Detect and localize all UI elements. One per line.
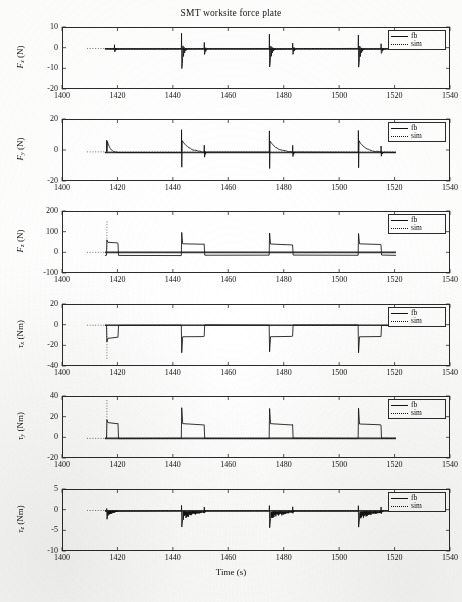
y-tick-label: 20 <box>18 412 58 421</box>
legend-line-dotted-icon <box>391 321 408 322</box>
legend-line-solid-icon <box>391 36 408 37</box>
x-tick-label: 1540 <box>434 368 462 377</box>
legend-entry-sim[interactable]: sim <box>391 409 443 417</box>
x-tick-label: 1540 <box>434 183 462 192</box>
x-tick-label: 1500 <box>323 460 355 469</box>
legend-1[interactable]: fbsim <box>388 30 446 50</box>
x-tick-label: 1420 <box>101 460 133 469</box>
x-tick-label: 1460 <box>212 183 244 192</box>
x-tick-label: 1400 <box>46 183 78 192</box>
legend-entry-sim[interactable]: sim <box>391 40 443 48</box>
x-tick-label: 1520 <box>379 275 411 284</box>
legend-entry-sim[interactable]: sim <box>391 132 443 140</box>
legend-entry-sim[interactable]: sim <box>391 317 443 325</box>
x-tick-label: 1420 <box>101 275 133 284</box>
x-tick-label: 1460 <box>212 368 244 377</box>
y-tick-label: -100 <box>18 268 58 277</box>
y-axis-label-2: Fy (N) <box>15 129 25 169</box>
x-axis-label: Time (s) <box>0 567 462 577</box>
y-tick-label: 10 <box>18 22 58 31</box>
legend-line-solid-icon <box>391 405 408 406</box>
legend-line-dotted-icon <box>391 506 408 507</box>
y-tick-label: 20 <box>18 299 58 308</box>
legend-entry-sim[interactable]: sim <box>391 224 443 232</box>
legend-label: sim <box>411 40 422 48</box>
legend-entry-sim[interactable]: sim <box>391 502 443 510</box>
y-tick-label: 200 <box>18 206 58 215</box>
x-tick-label: 1480 <box>268 553 300 562</box>
y-tick-label: -20 <box>18 84 58 93</box>
legend-line-dotted-icon <box>391 413 408 414</box>
x-tick-label: 1500 <box>323 183 355 192</box>
series-fb <box>105 232 396 255</box>
legend-2[interactable]: fbsim <box>388 122 446 142</box>
y-tick-label: -5 <box>18 525 58 534</box>
x-tick-label: 1400 <box>46 460 78 469</box>
y-tick-label: 0 <box>18 505 58 514</box>
legend-line-solid-icon <box>391 128 408 129</box>
x-tick-label: 1400 <box>46 368 78 377</box>
x-tick-label: 1540 <box>434 275 462 284</box>
x-tick-label: 1540 <box>434 91 462 100</box>
x-tick-label: 1520 <box>379 91 411 100</box>
x-tick-label: 1500 <box>323 91 355 100</box>
x-tick-label: 1480 <box>268 275 300 284</box>
y-axis-label-1: Fx (N) <box>15 37 25 77</box>
series-fb <box>105 33 396 68</box>
legend-line-solid-icon <box>391 220 408 221</box>
x-tick-label: 1520 <box>379 183 411 192</box>
x-tick-label: 1440 <box>157 368 189 377</box>
y-axis-label-3: Fz (N) <box>15 221 25 261</box>
y-tick-label: -20 <box>18 453 58 462</box>
y-tick-label: -10 <box>18 546 58 555</box>
x-tick-label: 1400 <box>46 553 78 562</box>
x-tick-label: 1540 <box>434 553 462 562</box>
y-axis-label-6: τz (Nm) <box>15 499 25 539</box>
legend-line-solid-icon <box>391 313 408 314</box>
legend-line-dotted-icon <box>391 228 408 229</box>
x-tick-label: 1520 <box>379 368 411 377</box>
x-tick-label: 1500 <box>323 275 355 284</box>
legend-4[interactable]: fbsim <box>388 307 446 327</box>
x-tick-label: 1440 <box>157 183 189 192</box>
x-tick-label: 1460 <box>212 553 244 562</box>
y-tick-label: 0 <box>18 145 58 154</box>
series-fb <box>105 505 396 527</box>
figure-title: SMT worksite force plate <box>0 8 462 18</box>
subplot-6: τz (Nm)50-5-1014001420144014601480150015… <box>0 0 462 602</box>
x-tick-label: 1400 <box>46 275 78 284</box>
x-tick-label: 1480 <box>268 183 300 192</box>
x-tick-label: 1440 <box>157 91 189 100</box>
series-fb <box>105 325 396 353</box>
y-tick-label: 40 <box>18 391 58 400</box>
x-tick-label: 1520 <box>379 460 411 469</box>
legend-label: sim <box>411 224 422 232</box>
y-tick-label: -40 <box>18 361 58 370</box>
y-tick-label: 5 <box>18 484 58 493</box>
x-tick-label: 1500 <box>323 553 355 562</box>
legend-6[interactable]: fbsim <box>388 492 446 512</box>
x-tick-label: 1520 <box>379 553 411 562</box>
legend-label: sim <box>411 317 422 325</box>
x-tick-label: 1420 <box>101 183 133 192</box>
x-tick-label: 1460 <box>212 275 244 284</box>
x-tick-label: 1440 <box>157 460 189 469</box>
x-tick-label: 1440 <box>157 553 189 562</box>
legend-5[interactable]: fbsim <box>388 399 446 419</box>
x-tick-label: 1540 <box>434 460 462 469</box>
y-tick-label: -20 <box>18 340 58 349</box>
x-tick-label: 1420 <box>101 553 133 562</box>
x-tick-label: 1480 <box>268 460 300 469</box>
y-axis-label-4: τx (Nm) <box>15 314 25 354</box>
y-tick-label: -10 <box>18 63 58 72</box>
x-tick-label: 1420 <box>101 91 133 100</box>
legend-label: sim <box>411 132 422 140</box>
y-tick-label: 100 <box>18 227 58 236</box>
y-tick-label: 20 <box>18 114 58 123</box>
x-tick-label: 1480 <box>268 368 300 377</box>
legend-3[interactable]: fbsim <box>388 214 446 234</box>
x-tick-label: 1420 <box>101 368 133 377</box>
figure-root: SMT worksite force plate Fx (N)100-10-20… <box>0 0 462 602</box>
legend-label: sim <box>411 409 422 417</box>
series-fb <box>105 130 396 169</box>
